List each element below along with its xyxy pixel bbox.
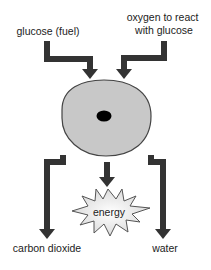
oxygen-label: oxygen to react with glucose: [127, 11, 202, 36]
carbon-dioxide-label: carbon dioxide: [13, 242, 81, 254]
water-label: water: [151, 242, 178, 254]
oxygen-arrow: [116, 41, 164, 79]
water-arrow: [151, 155, 171, 239]
cell: [62, 80, 151, 156]
glucose-label: glucose (fuel): [16, 25, 79, 37]
carbon-dioxide-arrow: [39, 155, 63, 239]
nucleus: [97, 111, 112, 122]
energy-starburst: energy: [72, 189, 150, 236]
energy-arrow: [99, 162, 115, 187]
respiration-diagram: glucose (fuel) oxygen to react with gluc…: [0, 0, 211, 270]
glucose-arrow: [47, 41, 98, 79]
energy-label: energy: [93, 206, 126, 218]
